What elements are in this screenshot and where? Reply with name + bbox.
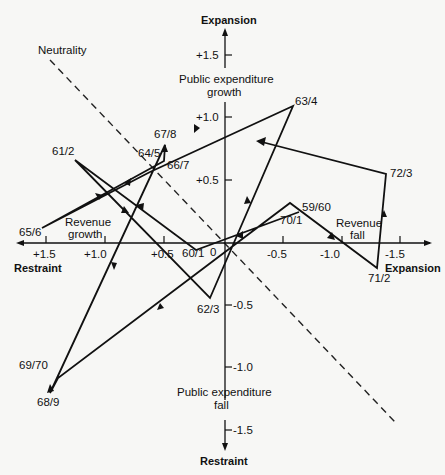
point-label-63-4: 63/4 <box>295 95 318 107</box>
pe-growth-label: growth <box>207 86 242 98</box>
x-left-end-label: Restraint <box>14 262 62 274</box>
y-top-end-label: Expansion <box>201 14 257 26</box>
x-tick-label: +1.5 <box>33 248 56 260</box>
point-label-62-3: 62/3 <box>197 303 219 315</box>
x-axis-right-arrow-icon <box>424 240 432 246</box>
revenue-fall-label: fall <box>350 229 365 241</box>
y-axis-down-arrow-icon <box>222 443 228 451</box>
revenue-growth-label: Revenue <box>65 216 111 228</box>
y-bottom-end-label: Restraint <box>200 455 248 467</box>
point-label-60-1: 60/1 <box>182 247 204 259</box>
pe-fall-label: fall <box>214 399 229 411</box>
y-axis-up-arrow-icon <box>222 28 228 36</box>
point-label-61-2: 61/2 <box>52 145 74 157</box>
y-tick-label: +0.5 <box>196 174 219 186</box>
path-end-arrow-icon <box>256 137 266 146</box>
y-tick-label: -0.5 <box>233 299 253 311</box>
x-tick-label: -0.5 <box>267 248 287 260</box>
point-label-70-1: 70/1 <box>280 214 302 226</box>
pe-growth-label: Public expenditure <box>179 73 274 85</box>
x-axis-left-arrow-icon <box>16 240 24 246</box>
y-tick-label: -1.5 <box>233 424 253 436</box>
fiscal-stance-chart: Neutrality +1.5 +1.0 +0.5 0 -0.5 -1.0 -1… <box>0 0 445 475</box>
point-label-64-5: 64/5 <box>138 147 160 159</box>
revenue-growth-label: growth <box>68 228 103 240</box>
point-label-72-3: 72/3 <box>390 167 412 179</box>
y-tick-label: -1.0 <box>233 361 253 373</box>
x-tick-label: -1.5 <box>385 248 405 260</box>
y-tick-label: +1.5 <box>196 49 219 61</box>
point-label-69-70: 69/70 <box>19 359 48 371</box>
point-label-68-9: 68/9 <box>37 396 59 408</box>
point-label-67-8: 67/8 <box>154 128 176 140</box>
revenue-fall-label: Revenue <box>336 217 382 229</box>
point-label-59-60: 59/60 <box>302 201 331 213</box>
point-label-66-7: 66/7 <box>167 159 189 171</box>
point-label-65-6: 65/6 <box>19 226 41 238</box>
x-tick-label: +1.0 <box>84 248 107 260</box>
y-tick-label: +1.0 <box>196 111 219 123</box>
pe-fall-label: Public expenditure <box>177 386 272 398</box>
x-right-end-label: Expansion <box>385 262 441 274</box>
neutrality-label: Neutrality <box>38 44 87 56</box>
origin-label: 0 <box>210 246 216 258</box>
x-tick-label: -1.0 <box>320 248 340 260</box>
point-label-71-2: 71/2 <box>368 272 390 284</box>
